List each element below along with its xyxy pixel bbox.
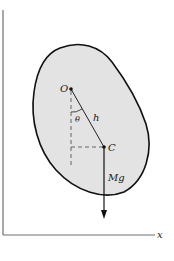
x-axis-label: x [157, 229, 163, 240]
weight-arrow-head [101, 210, 107, 219]
center-of-mass-point-C [102, 145, 106, 149]
pivot-point-O [69, 87, 73, 91]
angle-label: θ [75, 115, 80, 124]
distance-label: h [93, 112, 99, 123]
pivot-label: O [60, 83, 68, 94]
pendulum-diagram: x O C θ h Mg [0, 0, 174, 261]
rigid-body [33, 44, 149, 195]
center-of-mass-label: C [108, 142, 116, 153]
weight-label: Mg [107, 172, 125, 183]
